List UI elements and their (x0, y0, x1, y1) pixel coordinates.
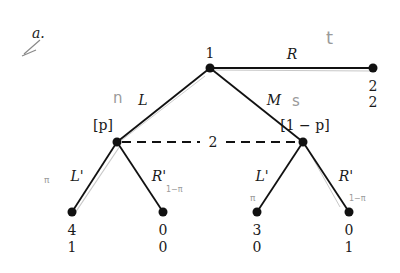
terminal-node-LL (68, 208, 77, 217)
move-label-M: M (266, 92, 282, 108)
payoff-MR-p2: 1 (345, 239, 354, 255)
handwritten-1-pi-right: 1−π (349, 194, 366, 203)
payoff-MR-p1: 0 (345, 222, 354, 238)
payoff-LR-p1: 0 (159, 222, 168, 238)
move-label-left-Lprime: L' (69, 168, 83, 184)
edge-L (117, 68, 210, 142)
decision-node-left (113, 138, 122, 147)
handwritten-s: s (292, 92, 300, 110)
handwritten-pi-right: π (250, 193, 256, 203)
belief-right: [1 − p] (280, 117, 329, 133)
terminal-node-MR (345, 208, 354, 217)
handwritten-n: n (113, 89, 123, 107)
payoff-ML-p2: 0 (253, 239, 262, 255)
terminal-node-LR (159, 208, 168, 217)
payoff-R-p2: 2 (369, 94, 378, 110)
pencil-trace-R (210, 70, 373, 71)
payoff-R-p1: 2 (369, 78, 378, 94)
payoff-LL-p2: 1 (68, 239, 77, 255)
move-label-L: L (137, 92, 147, 108)
game-tree: a. 1 R L M [p] [1 − p] 2 L' R' L' R' 2 2… (0, 0, 400, 273)
figure-label: a. (32, 25, 45, 41)
terminal-node-ML (253, 208, 262, 217)
move-label-left-Rprime: R' (151, 168, 166, 184)
root-node (206, 64, 215, 73)
payoff-LR-p2: 0 (159, 239, 168, 255)
decision-node-right (299, 138, 308, 147)
terminal-node-R (369, 64, 378, 73)
payoff-ML-p1: 3 (253, 222, 262, 238)
move-label-right-Lprime: L' (254, 168, 268, 184)
handwritten-1-pi-left: 1−π (166, 185, 183, 194)
pencil-mark (22, 40, 40, 56)
info-set-player-label: 2 (209, 134, 218, 150)
payoff-LL-p1: 4 (68, 222, 77, 238)
handwritten-pi-left: π (44, 175, 50, 185)
pencil-trace-L (122, 76, 205, 140)
root-player-label: 1 (206, 45, 215, 61)
belief-left: [p] (93, 117, 113, 133)
move-label-right-Rprime: R' (338, 168, 353, 184)
handwritten-t: t (326, 27, 333, 48)
move-label-R: R (286, 46, 298, 62)
